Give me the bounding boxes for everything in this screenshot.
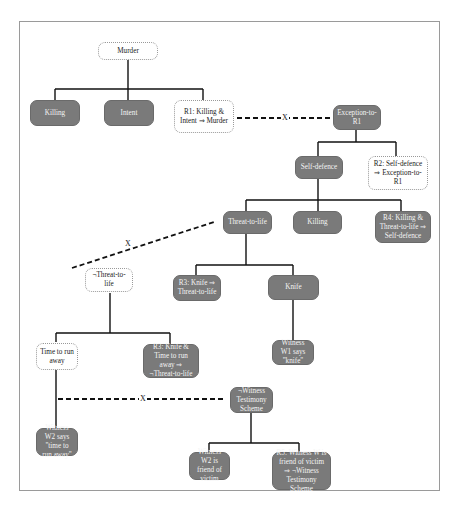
node-not-threat-to-life: ¬Threat-to-life (85, 268, 133, 292)
node-rule-r4: R4: Killing & Threat-to-life ⇒ Self-defe… (375, 211, 431, 243)
node-rule-r3-time: R3: Knife & Time to run away ⇒ ¬Threat-t… (143, 344, 199, 378)
node-witness-w1: Witness W1 says "knife" (272, 340, 314, 365)
node-killing: Killing (30, 100, 80, 126)
attack-marker-witness: X (139, 395, 147, 403)
node-witness-w2: Witness W2 says "time to run away" (36, 428, 78, 456)
node-killing-2: Killing (293, 211, 342, 234)
node-threat-to-life: Threat-to-life (223, 211, 272, 234)
node-exception-to-r1: Exception-to-R1 (333, 105, 381, 130)
node-rule-r2: R2: Self-defence ⇒ Exception-to-R1 (368, 156, 428, 190)
node-self-defence: Self-defence (295, 156, 343, 179)
node-knife: Knife (268, 275, 319, 300)
node-w2-friend-of-victim: Witness W2 is friend of victim (189, 452, 230, 480)
attack-marker-threat: X (124, 240, 132, 248)
node-rule-r1: R1: Killing & Intent ⇒ Murder (174, 100, 234, 133)
node-not-witness-testimony-scheme: ¬Witness Testimony Scheme (230, 387, 273, 413)
node-intent: Intent (104, 100, 154, 126)
node-rule-r3-knife: R3: Knife ⇒ Threat-to-life (173, 275, 221, 301)
node-rule-r5: R5: Witness W is friend of victim ⇒ ¬Wit… (272, 452, 331, 490)
node-murder: Murder (98, 42, 158, 60)
attack-marker-r1: X (281, 114, 289, 122)
node-time-to-run-away: Time to run away (36, 343, 78, 370)
